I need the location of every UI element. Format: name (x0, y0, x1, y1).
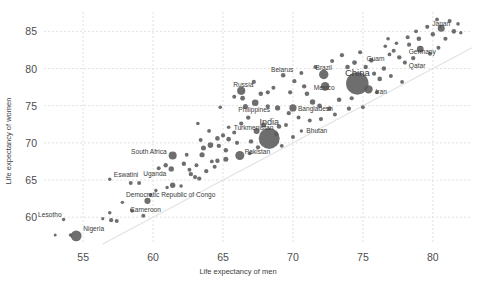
data-point (443, 37, 447, 41)
data-point (299, 71, 303, 75)
data-point (215, 136, 220, 141)
data-point (275, 105, 280, 110)
data-point (249, 139, 253, 143)
data-point-turkmenistan (227, 125, 231, 129)
identity-reference-line (103, 48, 472, 244)
point-label: India (259, 117, 279, 127)
data-point-lesotho (62, 218, 65, 221)
data-point (377, 77, 382, 82)
point-label: Bangladesh (298, 105, 333, 113)
data-point-cameroon (144, 198, 150, 204)
point-label: Russia (233, 81, 253, 88)
data-point (271, 86, 275, 90)
data-point (395, 41, 399, 45)
data-point (302, 84, 306, 88)
x-tick-label: 80 (427, 251, 439, 263)
data-point (280, 144, 284, 148)
data-point (372, 72, 376, 76)
data-point (425, 25, 429, 29)
data-point (199, 152, 204, 157)
data-point (69, 233, 73, 237)
data-point (213, 165, 217, 169)
data-point (226, 137, 231, 142)
data-point (383, 44, 387, 48)
life-expectancy-scatter-chart: LesothoNigeriaEswatiniCameroonDemocratic… (0, 0, 477, 282)
data-point (204, 169, 208, 173)
data-point (358, 50, 362, 54)
data-point (246, 115, 250, 119)
data-point (196, 122, 200, 126)
data-point (292, 79, 296, 83)
data-point-eswatini (108, 178, 111, 181)
data-point (235, 141, 239, 145)
data-point-qatar (403, 60, 407, 64)
data-point (207, 129, 211, 133)
data-point (406, 35, 410, 39)
data-point (400, 80, 404, 84)
point-label: Japan (432, 20, 450, 28)
data-point (347, 107, 351, 111)
data-point (108, 211, 112, 215)
data-point (193, 175, 197, 179)
data-point (340, 53, 344, 57)
data-point (179, 184, 183, 188)
y-tick-label: 80 (25, 63, 37, 75)
data-point (319, 117, 323, 121)
data-point (208, 142, 214, 148)
data-point (386, 37, 390, 41)
data-point (333, 113, 337, 117)
data-point (163, 163, 167, 167)
data-point (215, 159, 219, 163)
data-point (330, 59, 334, 63)
data-point (189, 172, 193, 176)
data-point (223, 157, 228, 162)
x-tick-label: 55 (77, 251, 89, 263)
data-point (240, 96, 245, 101)
data-point (165, 186, 168, 189)
data-point (361, 105, 365, 109)
data-point (417, 36, 422, 41)
point-label: Germany (409, 48, 437, 56)
data-point (141, 214, 145, 218)
data-point-uganda (169, 166, 174, 171)
x-tick-label: 60 (147, 251, 159, 263)
data-point (197, 176, 201, 180)
data-point (201, 146, 206, 151)
data-point (266, 90, 270, 94)
point-label: Nigeria (83, 225, 104, 233)
data-point (411, 56, 415, 60)
y-tick-label: 70 (25, 137, 37, 149)
data-point-south-africa (169, 152, 177, 160)
data-point-belarus (281, 73, 286, 78)
data-point-bhutan (300, 129, 303, 132)
data-point (101, 217, 104, 220)
data-point (185, 153, 189, 157)
data-point-india (259, 128, 280, 149)
x-tick-label: 65 (217, 251, 229, 263)
point-label: Pakistan (245, 148, 271, 155)
data-point (224, 148, 228, 152)
data-point (382, 66, 386, 70)
x-axis-title: Life expectancy of men (199, 267, 276, 276)
y-tick-label: 65 (25, 174, 37, 186)
data-point (305, 91, 310, 96)
data-point (137, 181, 141, 185)
point-label: Brazil (315, 64, 332, 71)
point-label: Qatar (409, 62, 426, 70)
data-point (436, 46, 440, 50)
y-axis-ticks: 606570758085 (25, 25, 37, 223)
data-point (337, 97, 342, 102)
x-tick-label: 70 (287, 251, 299, 263)
data-point (217, 144, 221, 148)
data-point (392, 49, 396, 53)
data-point (199, 138, 203, 142)
data-point (218, 105, 222, 109)
data-point (232, 130, 236, 134)
data-point (54, 234, 57, 237)
data-point-pakistan (235, 151, 244, 160)
y-tick-label: 75 (25, 100, 37, 112)
point-label: Lesotho (38, 211, 62, 218)
point-label: Guam (367, 55, 385, 62)
point-label: Democratic Republic of Congo (126, 191, 216, 199)
data-point (352, 60, 357, 65)
